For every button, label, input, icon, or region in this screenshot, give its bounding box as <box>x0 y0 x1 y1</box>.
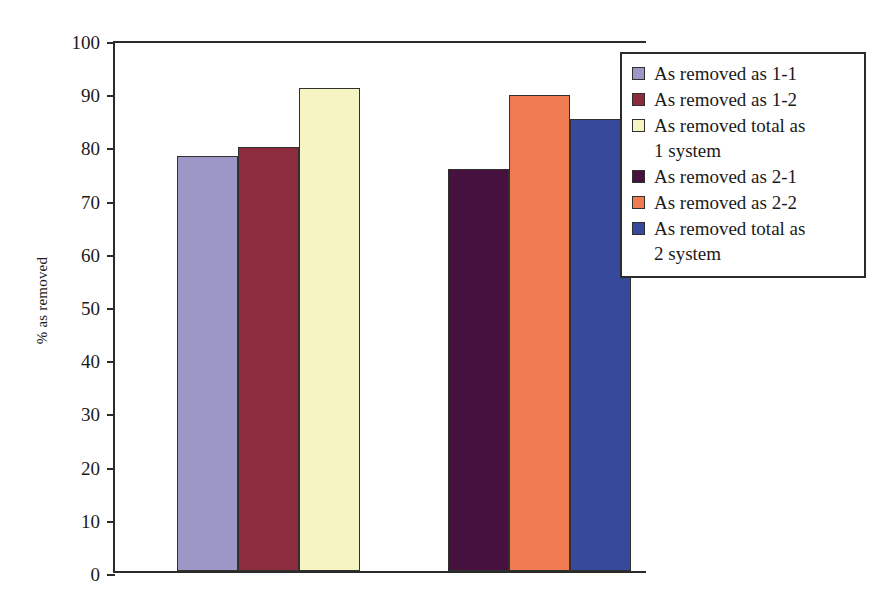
y-tick: 90 <box>107 95 115 97</box>
y-tick-label: 20 <box>81 459 100 479</box>
bar-chart: % as removed 1009080706050403020100 As r… <box>0 0 883 608</box>
legend-item: As removed as 2-2 <box>632 190 856 215</box>
y-tick: 30 <box>107 414 115 416</box>
y-axis-title: % as removed <box>34 231 51 371</box>
legend-label: As removed total as 1 system <box>654 113 805 163</box>
y-tick-label: 50 <box>81 299 100 319</box>
legend-label: As removed as 1-2 <box>654 87 797 112</box>
legend-item: As removed total as 1 system <box>632 113 856 163</box>
y-tick: 50 <box>107 308 115 310</box>
y-tick-label: 60 <box>81 246 100 266</box>
y-tick-label: 0 <box>91 565 101 585</box>
bar-3 <box>299 88 360 571</box>
y-tick: 80 <box>107 148 115 150</box>
y-tick-label: 90 <box>81 86 100 106</box>
y-tick: 40 <box>107 361 115 363</box>
y-tick: 100 <box>107 42 115 44</box>
legend-label: As removed as 2-1 <box>654 164 797 189</box>
legend-swatch-icon <box>632 222 645 235</box>
legend-swatch-icon <box>632 93 645 106</box>
bars-layer <box>115 43 646 571</box>
y-tick-label: 80 <box>81 139 100 159</box>
legend-label: As removed as 1-1 <box>654 61 797 86</box>
y-tick: 20 <box>107 468 115 470</box>
y-tick: 0 <box>107 574 115 576</box>
bar-4 <box>448 169 509 571</box>
y-tick-label: 10 <box>81 512 100 532</box>
legend-swatch-icon <box>632 67 645 80</box>
legend-swatch-icon <box>632 196 645 209</box>
bar-5 <box>509 95 570 571</box>
y-tick: 10 <box>107 521 115 523</box>
legend-item: As removed as 2-1 <box>632 164 856 189</box>
legend-swatch-icon <box>632 119 645 132</box>
y-tick-label: 40 <box>81 352 100 372</box>
legend-item: As removed as 1-1 <box>632 61 856 86</box>
plot-area: 1009080706050403020100 <box>113 41 646 573</box>
legend-item: As removed total as 2 system <box>632 216 856 266</box>
legend-swatch-icon <box>632 170 645 183</box>
y-tick: 60 <box>107 255 115 257</box>
y-tick-label: 100 <box>72 33 101 53</box>
legend-label: As removed as 2-2 <box>654 190 797 215</box>
y-tick: 70 <box>107 202 115 204</box>
bar-2 <box>238 147 299 571</box>
legend: As removed as 1-1As removed as 1-2As rem… <box>620 52 866 278</box>
legend-label: As removed total as 2 system <box>654 216 805 266</box>
y-tick-label: 30 <box>81 405 100 425</box>
y-tick-label: 70 <box>81 193 100 213</box>
bar-1 <box>177 156 238 571</box>
legend-item: As removed as 1-2 <box>632 87 856 112</box>
